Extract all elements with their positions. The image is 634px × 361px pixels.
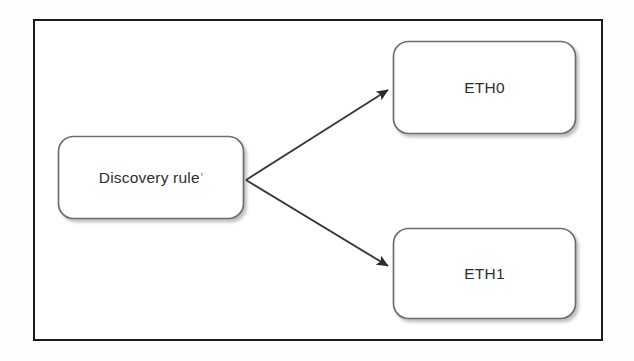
node-text-discovery-rule: Discovery rule xyxy=(99,169,200,187)
node-label-eth1[interactable]: ETH1 xyxy=(393,228,576,319)
diagram-canvas: Discovery rule' ETH0 ETH1 xyxy=(0,0,634,361)
node-text-eth1: ETH1 xyxy=(464,265,504,283)
node-label-eth0[interactable]: ETH0 xyxy=(393,41,576,134)
node-label-discovery-rule[interactable]: Discovery rule' xyxy=(58,136,244,219)
node-text-eth0: ETH0 xyxy=(464,79,504,97)
node-text-discovery-rule-mark: ' xyxy=(201,171,204,185)
